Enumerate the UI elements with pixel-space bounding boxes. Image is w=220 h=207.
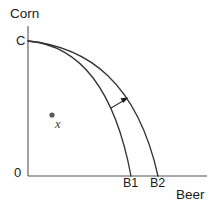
point-x-marker (49, 112, 54, 117)
shift-arrow (111, 98, 129, 109)
point-x-label: x (55, 118, 61, 131)
ppf-figure: Corn Beer C 0 B1 B2 x (0, 0, 220, 207)
origin-label: 0 (14, 166, 21, 179)
ppf-curve-inner (28, 41, 131, 176)
x-intercept-label-b1: B1 (123, 177, 138, 190)
x-intercept-label-b2: B2 (150, 177, 165, 190)
ppf-curve-outer (28, 41, 158, 176)
x-axis-label: Beer (176, 188, 205, 201)
ppf-chart-svg (0, 0, 220, 207)
y-intercept-label: C (16, 34, 25, 47)
y-axis-label: Corn (10, 7, 39, 20)
